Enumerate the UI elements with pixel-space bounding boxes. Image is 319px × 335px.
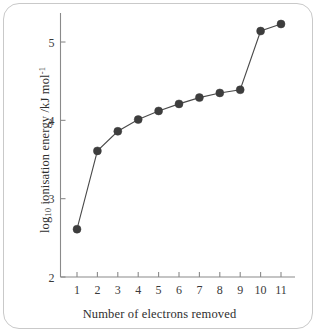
data-point-marker [175,100,183,108]
x-tick-label: 10 [255,283,267,297]
x-tick-label: 3 [115,283,121,297]
x-tick-label: 1 [74,283,80,297]
data-point-marker [93,147,101,155]
y-axis-title: log10 ionisation energy /kJ mol-1 [37,25,53,275]
x-tick-label: 6 [176,283,182,297]
data-point-marker [195,94,203,102]
axes-group [61,13,296,277]
data-point-marker [257,27,265,35]
x-axis-title: Number of electrons removed [0,307,319,322]
data-point-marker [155,107,163,115]
data-point-marker [277,20,285,28]
x-tick-label: 5 [156,283,162,297]
data-point-marker [114,127,122,135]
series-line [77,24,281,229]
x-tick-label: 7 [196,283,202,297]
x-tick-label: 8 [217,283,223,297]
data-point-marker [236,86,244,94]
x-tick-group: 1234567891011 [74,272,287,297]
x-tick-label: 11 [275,283,287,297]
data-series-group [73,20,285,233]
x-tick-label: 9 [237,283,243,297]
data-point-marker [134,116,142,124]
data-point-marker [73,225,81,233]
data-point-marker [216,89,224,97]
x-tick-label: 2 [94,283,100,297]
figure-container: 2345 1234567891011 log10 ionisation ener… [0,0,319,335]
x-tick-label: 4 [135,283,141,297]
